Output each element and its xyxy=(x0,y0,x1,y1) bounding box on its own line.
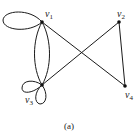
edge-v1-v3-right xyxy=(42,22,50,85)
vertex-v1 xyxy=(40,20,44,24)
edge-v2-v4 xyxy=(119,22,125,86)
edge-v1-v3-left xyxy=(35,22,43,85)
edge-loop-v1 xyxy=(3,12,42,29)
graph-diagram: v1 v2 v3 v4 (a) xyxy=(0,0,138,133)
vertex-v2 xyxy=(117,20,121,24)
vertex-v3 xyxy=(40,83,44,87)
edge-v1-v4 xyxy=(42,22,125,86)
figure-caption: (a) xyxy=(64,121,74,131)
vertex-label-v4: v4 xyxy=(125,89,133,102)
vertex-label-v2: v2 xyxy=(117,8,125,21)
edge-loop-v3-left xyxy=(22,81,42,92)
vertex-v4 xyxy=(123,84,127,88)
edge-loop-v3-down xyxy=(36,85,46,104)
vertex-label-v3: v3 xyxy=(25,94,33,107)
vertex-label-v1: v1 xyxy=(45,8,53,21)
